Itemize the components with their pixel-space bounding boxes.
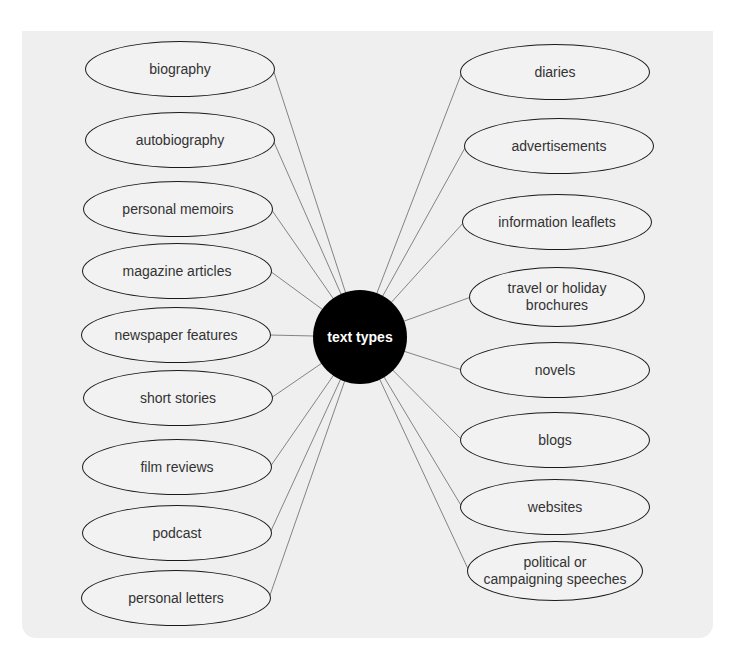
node-biography: biography <box>85 41 275 97</box>
node-personal-letters: personal letters <box>81 570 271 626</box>
node-diaries: diaries <box>460 44 650 100</box>
node-blogs: blogs <box>460 412 650 468</box>
node-label: magazine articles <box>123 263 232 280</box>
node-label: information leaflets <box>498 214 616 231</box>
node-travel-or-holiday-brochures: travel or holiday brochures <box>469 267 645 327</box>
node-advertisements: advertisements <box>464 118 654 174</box>
node-personal-memoirs: personal memoirs <box>83 181 273 237</box>
node-newspaper-features: newspaper features <box>81 307 271 363</box>
central-node: text types <box>313 290 407 384</box>
node-label: travel or holiday brochures <box>484 280 630 314</box>
node-novels: novels <box>460 342 650 398</box>
node-short-stories: short stories <box>83 370 273 426</box>
node-label: political or campaigning speeches <box>482 554 628 588</box>
node-label: film reviews <box>140 459 213 476</box>
node-label: personal memoirs <box>122 201 233 218</box>
central-node-label: text types <box>327 329 392 345</box>
node-label: newspaper features <box>115 327 238 344</box>
node-websites: websites <box>460 479 650 535</box>
node-label: websites <box>528 499 582 516</box>
node-label: advertisements <box>512 138 607 155</box>
node-political-or-campaigning-speeches: political or campaigning speeches <box>467 541 643 601</box>
node-label: short stories <box>140 390 216 407</box>
node-information-leaflets: information leaflets <box>462 194 652 250</box>
node-label: personal letters <box>128 590 224 607</box>
node-label: novels <box>535 362 575 379</box>
node-podcast: podcast <box>82 505 272 561</box>
node-magazine-articles: magazine articles <box>82 243 272 299</box>
node-label: diaries <box>534 64 575 81</box>
node-label: autobiography <box>136 132 225 149</box>
node-label: biography <box>149 61 211 78</box>
node-film-reviews: film reviews <box>82 439 272 495</box>
node-autobiography: autobiography <box>85 112 275 168</box>
node-label: blogs <box>538 432 571 449</box>
node-label: podcast <box>152 525 201 542</box>
